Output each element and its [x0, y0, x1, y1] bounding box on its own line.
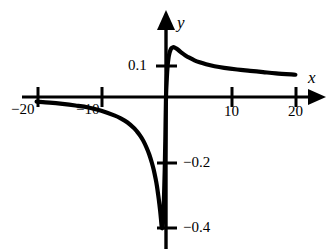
y-axis-label: y	[177, 14, 185, 31]
y-tick-label-neg04: −0.4	[183, 220, 210, 235]
y-tick-label-neg02: −0.2	[183, 155, 210, 170]
x-tick-label-neg20: −20	[11, 102, 34, 117]
graph-figure: −20 −10 10 20 0.1 −0.2 −0.4 y x	[0, 0, 331, 249]
y-tick-label-01: 0.1	[128, 58, 147, 73]
plot-canvas	[0, 0, 331, 249]
x-tick-label-neg10: −10	[76, 102, 99, 117]
x-axis-label: x	[308, 69, 316, 86]
x-tick-label-20: 20	[288, 104, 303, 119]
x-tick-label-10: 10	[224, 104, 239, 119]
